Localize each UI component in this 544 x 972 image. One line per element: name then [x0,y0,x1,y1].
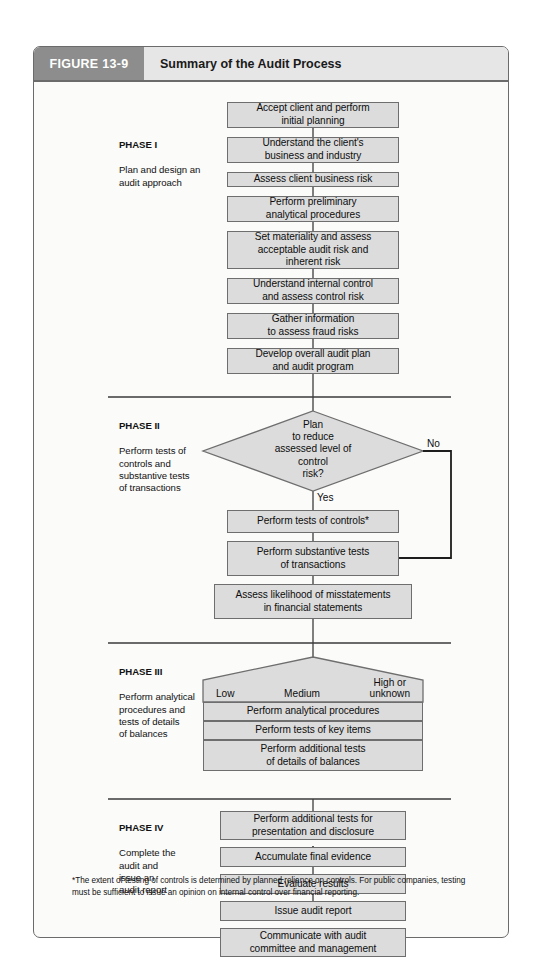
risk-level-medium: Medium [284,688,320,700]
step-tests-of-key-items[interactable]: Perform tests of key items [203,721,423,740]
risk-level-high: High or unknown [370,677,410,700]
step-understand-internal-control[interactable]: Understand internal control and assess c… [227,278,399,304]
step-tests-of-controls[interactable]: Perform tests of controls* [227,510,399,533]
decision-diamond-label: Plan to reduce assessed level of control… [233,419,393,480]
step-set-materiality[interactable]: Set materiality and assess acceptable au… [227,231,399,269]
step-communicate-audit-committee[interactable]: Communicate with audit committee and man… [220,928,406,957]
figure-footnote: *The extent of testing of controls is de… [72,875,472,898]
step-understand-business[interactable]: Understand the client's business and ind… [227,137,399,163]
step-substantive-tests[interactable]: Perform substantive tests of transaction… [227,541,399,576]
figure-header: FIGURE 13-9 Summary of the Audit Process [34,47,508,80]
step-accept-client[interactable]: Accept client and perform initial planni… [227,102,399,128]
phase-2-body: Perform tests of controls and substantiv… [119,445,239,495]
risk-level-row: Low Medium High or unknown [203,675,423,702]
risk-level-low: Low [216,688,235,700]
step-additional-tests-details[interactable]: Perform additional tests of details of b… [203,740,423,771]
step-assess-business-risk[interactable]: Assess client business risk [227,172,399,187]
branch-label-yes: Yes [317,492,333,503]
step-perform-analytical-procedures[interactable]: Perform analytical procedures [203,702,423,721]
step-accumulate-final-evidence[interactable]: Accumulate final evidence [220,847,406,867]
phase-1-body: Plan and design an audit approach [119,164,239,189]
step-gather-fraud-info[interactable]: Gather information to assess fraud risks [227,313,399,339]
figure-number-badge: FIGURE 13-9 [34,47,144,80]
phase-label-2: PHASE II Perform tests of controls and s… [119,408,239,507]
phase-label-1: PHASE I Plan and design an audit approac… [119,127,239,201]
step-presentation-disclosure[interactable]: Perform additional tests for presentatio… [220,811,406,840]
phase-2-heading: PHASE II [119,420,239,432]
step-develop-audit-plan[interactable]: Develop overall audit plan and audit pro… [227,348,399,374]
step-assess-likelihood-misstatements[interactable]: Assess likelihood of misstatements in fi… [214,584,412,619]
figure-frame: FIGURE 13-9 Summary of the Audit Process [33,46,509,938]
flowchart-canvas: PHASE I Plan and design an audit approac… [34,81,508,939]
figure-title: Summary of the Audit Process [144,47,508,80]
phase-1-heading: PHASE I [119,139,239,151]
step-preliminary-analytical[interactable]: Perform preliminary analytical procedure… [227,196,399,222]
figure-root: FIGURE 13-9 Summary of the Audit Process [0,0,544,972]
step-issue-audit-report[interactable]: Issue audit report [220,901,406,921]
branch-label-no: No [427,438,440,449]
